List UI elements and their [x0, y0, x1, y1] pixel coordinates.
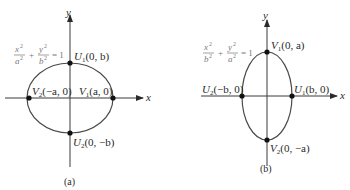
y-axis-label: y [262, 9, 268, 21]
point-label-v1: V1(0, a) [271, 39, 305, 53]
svg-text:y: y [227, 42, 232, 52]
ellipse-equation: x 2 b 2 + y 2 a 2 = 1 [203, 41, 253, 64]
svg-text:+: + [218, 48, 223, 58]
svg-text:y: y [38, 44, 43, 54]
svg-text:2: 2 [233, 41, 236, 47]
ellipse-figures: x y x 2 a 2 + y 2 b 2 = 1 U1(0, b) U2(0,… [0, 0, 350, 190]
svg-text:2: 2 [209, 41, 212, 47]
point-label-u2: U2(0, −b) [73, 136, 115, 150]
svg-text:= 1: = 1 [52, 50, 64, 60]
vertex-point [26, 95, 31, 100]
svg-text:2: 2 [20, 43, 23, 49]
point-label-u1: U1(0, b) [74, 50, 110, 64]
vertex-point [67, 60, 72, 65]
svg-text:2: 2 [209, 53, 212, 59]
svg-text:= 1: = 1 [241, 48, 253, 58]
y-axis-label: y [65, 6, 71, 18]
svg-text:+: + [29, 50, 34, 60]
point-label-u1: U1(b, 0) [294, 83, 330, 97]
point-label-u2: U2(−b, 0) [202, 83, 244, 97]
vertex-point [264, 137, 269, 142]
x-axis-label: x [145, 91, 151, 103]
vertex-point [67, 130, 72, 135]
point-label-v1: V1(a, 0) [79, 85, 113, 99]
diagram-a: x y x 2 a 2 + y 2 b 2 = 1 U1(0, b) U2(0,… [5, 6, 151, 188]
caption-a: (a) [64, 176, 75, 188]
diagram-b: x y x 2 b 2 + y 2 a 2 = 1 V1(0, a) V2(0,… [201, 9, 345, 175]
vertex-point [264, 49, 269, 54]
caption-b: (b) [260, 163, 272, 175]
point-label-v2: V2(−a, 0) [32, 85, 72, 99]
svg-text:2: 2 [20, 55, 23, 61]
svg-text:2: 2 [44, 55, 47, 61]
svg-text:2: 2 [233, 53, 236, 59]
svg-text:x: x [203, 42, 208, 52]
svg-text:2: 2 [44, 43, 47, 49]
ellipse-equation: x 2 a 2 + y 2 b 2 = 1 [14, 43, 64, 66]
x-axis-label: x [339, 89, 345, 101]
svg-text:x: x [14, 44, 19, 54]
point-label-v2: V2(0, −a) [270, 142, 310, 156]
